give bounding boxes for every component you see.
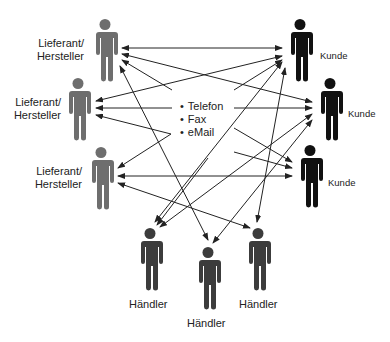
dealer-1-icon bbox=[140, 228, 163, 291]
supplier-3-label-line2: Hersteller bbox=[18, 178, 82, 191]
customer-1-label: Kunde bbox=[320, 49, 347, 62]
supplier-1-icon bbox=[95, 19, 118, 82]
supplier-1-label: Lieferant/ Hersteller bbox=[20, 37, 84, 63]
customer-1-icon bbox=[290, 19, 313, 82]
dealer-1-label: Händler bbox=[129, 298, 168, 311]
supplier-2-label-line2: Hersteller bbox=[0, 109, 61, 122]
channel-list: Telefon Fax eMail bbox=[180, 100, 223, 139]
supplier-3-icon bbox=[91, 147, 114, 210]
supplier-2-icon bbox=[68, 78, 91, 141]
dealer-2-icon bbox=[198, 247, 221, 310]
dealer-2-label: Händler bbox=[187, 317, 226, 330]
supplier-1-label-line1: Lieferant/ bbox=[20, 37, 84, 50]
communication-arrows bbox=[96, 48, 312, 243]
channel-telefon: Telefon bbox=[180, 100, 223, 113]
customer-3-label: Kunde bbox=[328, 176, 355, 189]
customer-2-label: Kunde bbox=[348, 107, 375, 120]
channel-email: eMail bbox=[180, 126, 223, 139]
supplier-2-label: Lieferant/ Hersteller bbox=[0, 96, 61, 122]
channel-fax: Fax bbox=[180, 113, 223, 126]
customer-3-icon bbox=[300, 145, 323, 208]
supplier-3-label: Lieferant/ Hersteller bbox=[18, 165, 82, 191]
supplier-3-label-line1: Lieferant/ bbox=[18, 165, 82, 178]
dealer-3-icon bbox=[248, 228, 271, 291]
customer-2-icon bbox=[320, 78, 343, 141]
dealer-3-label: Händler bbox=[239, 298, 278, 311]
supplier-2-label-line1: Lieferant/ bbox=[0, 96, 61, 109]
supplier-1-label-line2: Hersteller bbox=[20, 50, 84, 63]
